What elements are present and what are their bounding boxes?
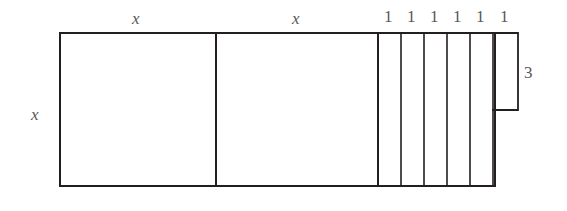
label-notch-height: 3: [524, 64, 533, 81]
geometry-figure: x x x 1 1 1 1 1 1 3: [0, 0, 567, 211]
figure-svg: [0, 0, 567, 211]
label-strip-5-width: 1: [476, 8, 485, 25]
label-strip-1-width: 1: [384, 8, 393, 25]
label-square-2-width: x: [292, 10, 300, 27]
label-strip-4-width: 1: [453, 8, 462, 25]
protruding-strip-outline: [493, 33, 518, 110]
label-strip-6-width: 1: [500, 8, 509, 25]
label-left-side-height: x: [31, 106, 39, 123]
label-strip-2-width: 1: [407, 8, 416, 25]
outer-rectangle-outline: [60, 33, 495, 186]
label-strip-3-width: 1: [430, 8, 439, 25]
label-square-1-width: x: [132, 10, 140, 27]
